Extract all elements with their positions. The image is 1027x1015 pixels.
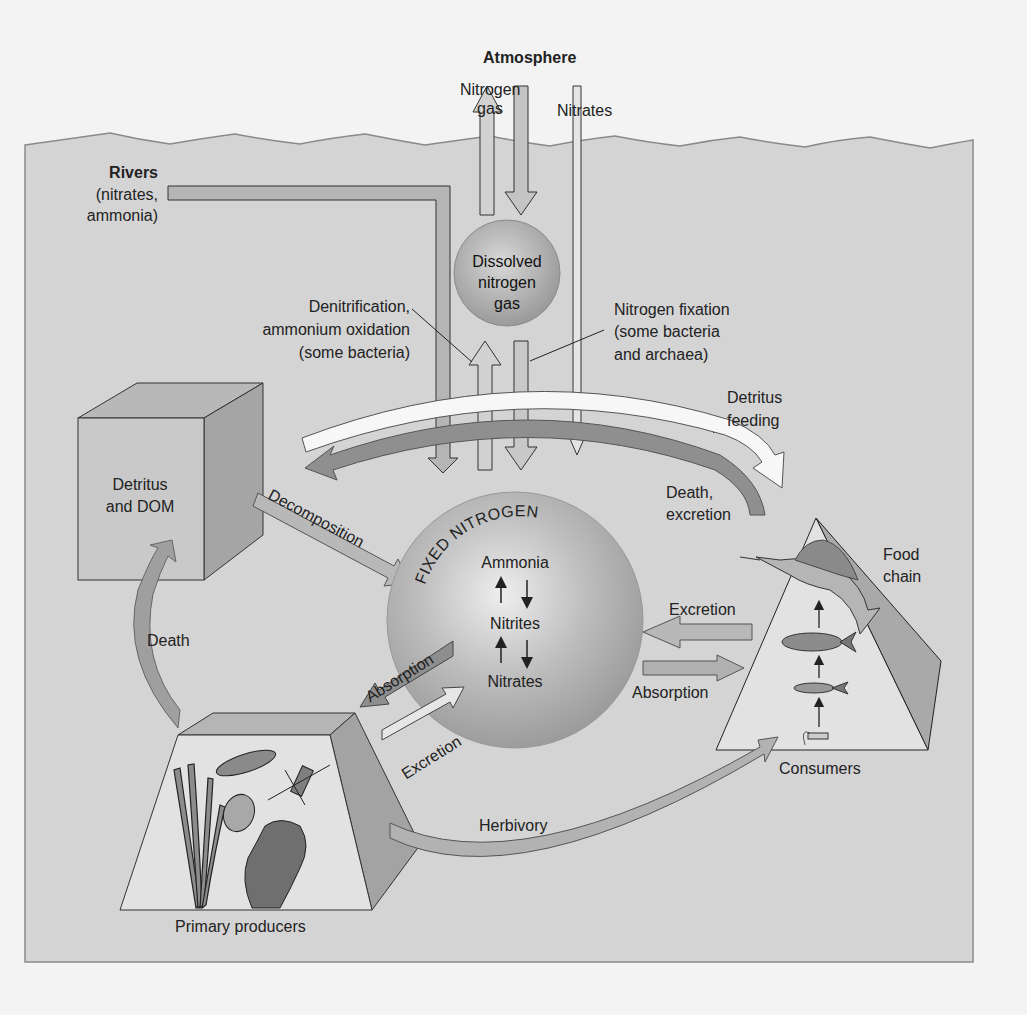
herbivory-label: Herbivory bbox=[479, 816, 547, 835]
nitrates-label: Nitrates bbox=[470, 672, 560, 691]
consumers-label: Consumers bbox=[779, 759, 861, 778]
fixation-line1: Nitrogen fixation bbox=[614, 300, 730, 319]
primary-producers-label: Primary producers bbox=[175, 917, 306, 936]
detritus-feeding-line2: feeding bbox=[727, 411, 780, 430]
death-excretion-line2: excretion bbox=[666, 505, 731, 524]
dissolved-gas-line3: gas bbox=[456, 294, 558, 313]
rivers-line1: (nitrates, bbox=[60, 185, 158, 204]
fixation-line2: (some bacteria bbox=[614, 322, 720, 341]
absorption-consumers-label: Absorption bbox=[632, 683, 709, 702]
nitrites-label: Nitrites bbox=[470, 614, 560, 633]
fixation-line3: and archaea) bbox=[614, 345, 708, 364]
nitrogen-gas-label-line1: Nitrogen bbox=[460, 80, 520, 99]
nitrogen-gas-label-line2: gas bbox=[460, 99, 520, 118]
denitrification-line3: (some bacteria) bbox=[200, 343, 410, 362]
food-chain-line2: chain bbox=[883, 567, 921, 586]
detritus-box-line1: Detritus bbox=[86, 475, 194, 494]
food-chain-line1: Food bbox=[883, 545, 919, 564]
detritus-box-line2: and DOM bbox=[86, 497, 194, 516]
rivers-line2: ammonia) bbox=[60, 206, 158, 225]
nitrates-atmosphere-label: Nitrates bbox=[557, 101, 612, 120]
atmosphere-label: Atmosphere bbox=[483, 48, 576, 67]
dissolved-gas-line2: nitrogen bbox=[456, 273, 558, 292]
denitrification-line2: ammonium oxidation bbox=[200, 320, 410, 339]
detritus-feeding-line1: Detritus bbox=[727, 388, 782, 407]
excretion-consumers-label: Excretion bbox=[669, 600, 736, 619]
death-excretion-line1: Death, bbox=[666, 483, 713, 502]
rivers-title: Rivers bbox=[80, 163, 158, 182]
death-label: Death bbox=[147, 631, 190, 650]
dissolved-gas-line1: Dissolved bbox=[456, 252, 558, 271]
ammonia-label: Ammonia bbox=[470, 553, 560, 572]
denitrification-line1: Denitrification, bbox=[200, 297, 410, 316]
